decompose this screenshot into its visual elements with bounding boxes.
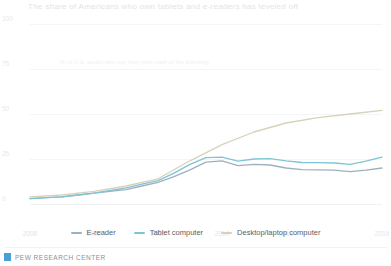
y-axis-tick-label: 50 bbox=[2, 105, 24, 113]
chart-legend: E-readerTablet computerDesktop/laptop co… bbox=[0, 228, 391, 237]
y-axis-tick-label: 100 bbox=[2, 15, 24, 23]
legend-swatch-icon bbox=[134, 232, 145, 234]
legend-item[interactable]: E-reader bbox=[71, 228, 116, 237]
legend-label: Tablet computer bbox=[150, 228, 203, 237]
footer-divider bbox=[4, 247, 387, 248]
legend-item[interactable]: Tablet computer bbox=[134, 228, 203, 237]
y-axis-tick-label: 25 bbox=[2, 150, 24, 158]
chart-title: The share of Americans who own tablets a… bbox=[28, 2, 368, 12]
gridline-0 bbox=[30, 204, 382, 205]
legend-label: Desktop/laptop computer bbox=[237, 228, 320, 237]
series-lines bbox=[30, 24, 382, 204]
y-axis-tick-label: 75 bbox=[2, 60, 24, 68]
pew-logo-mark bbox=[4, 253, 11, 261]
y-axis-tick-label: 0 bbox=[2, 195, 24, 203]
chart-container: The share of Americans who own tablets a… bbox=[0, 0, 391, 266]
series-line bbox=[30, 110, 382, 196]
legend-item[interactable]: Desktop/laptop computer bbox=[221, 228, 320, 237]
footer-source-label: PEW RESEARCH CENTER bbox=[15, 254, 106, 261]
legend-label: E-reader bbox=[87, 228, 116, 237]
legend-swatch-icon bbox=[221, 232, 232, 234]
legend-swatch-icon bbox=[71, 232, 82, 234]
chart-title-block: The share of Americans who own tablets a… bbox=[28, 2, 368, 18]
chart-footer: PEW RESEARCH CENTER bbox=[0, 250, 391, 264]
